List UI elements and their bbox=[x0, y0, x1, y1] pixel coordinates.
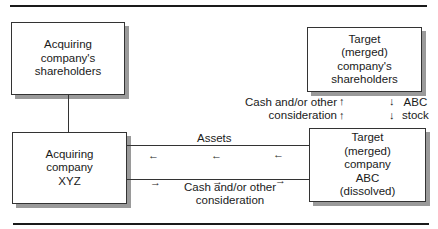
cash-to-shareholders-label: Cash and/or other consideration bbox=[237, 96, 337, 122]
up-arrow-icon: ↑ bbox=[339, 110, 345, 121]
assets-label: Assets bbox=[197, 132, 232, 145]
target-box: Target (merged) company ABC (dissolved) bbox=[309, 128, 426, 202]
target-label: Target (merged) company ABC (dissolved) bbox=[340, 131, 396, 199]
target-shareholders-box: Target (merged) company's shareholders bbox=[307, 27, 422, 92]
acquirer-shareholders-box: Acquiring company's shareholders bbox=[11, 22, 125, 95]
stock-label: ABC stock bbox=[402, 96, 429, 122]
right-arrow-icon: → bbox=[150, 177, 161, 188]
up-arrow-icon: ↑ bbox=[339, 96, 345, 107]
right-arrow-icon: → bbox=[212, 176, 223, 187]
acquirer-box: Acquiring company XYZ bbox=[12, 132, 127, 204]
right-arrow-icon: → bbox=[275, 175, 286, 186]
top-rule bbox=[10, 5, 427, 7]
down-arrow-icon: ↓ bbox=[389, 96, 395, 107]
assets-line bbox=[126, 145, 309, 146]
cash-to-target-label: Cash and/or other consideration bbox=[172, 181, 288, 207]
target-shareholders-label: Target (merged) company's shareholders bbox=[331, 33, 397, 87]
bottom-rule bbox=[13, 223, 429, 225]
left-arrow-icon: ← bbox=[273, 149, 284, 160]
acquirer-shareholders-label: Acquiring company's shareholders bbox=[35, 38, 101, 79]
left-arrow-icon: ← bbox=[148, 150, 159, 161]
down-arrow-icon: ↓ bbox=[389, 110, 395, 121]
shareholder-connector bbox=[68, 95, 69, 132]
left-arrow-icon: ← bbox=[211, 150, 222, 161]
acquirer-label: Acquiring company XYZ bbox=[46, 148, 94, 189]
